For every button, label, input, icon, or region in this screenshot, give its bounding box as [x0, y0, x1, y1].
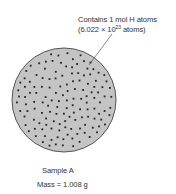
atom-count-line2: (6.022 × 1023 atoms)	[78, 25, 157, 35]
sample-circle	[12, 48, 116, 152]
sample-mass: Mass = 1.008 g	[37, 180, 88, 189]
sample-name: Sample A	[42, 166, 74, 175]
atom-count-label: Contains 1 mol H atoms (6.022 × 1023 ato…	[78, 15, 157, 35]
leader-line	[89, 34, 112, 65]
